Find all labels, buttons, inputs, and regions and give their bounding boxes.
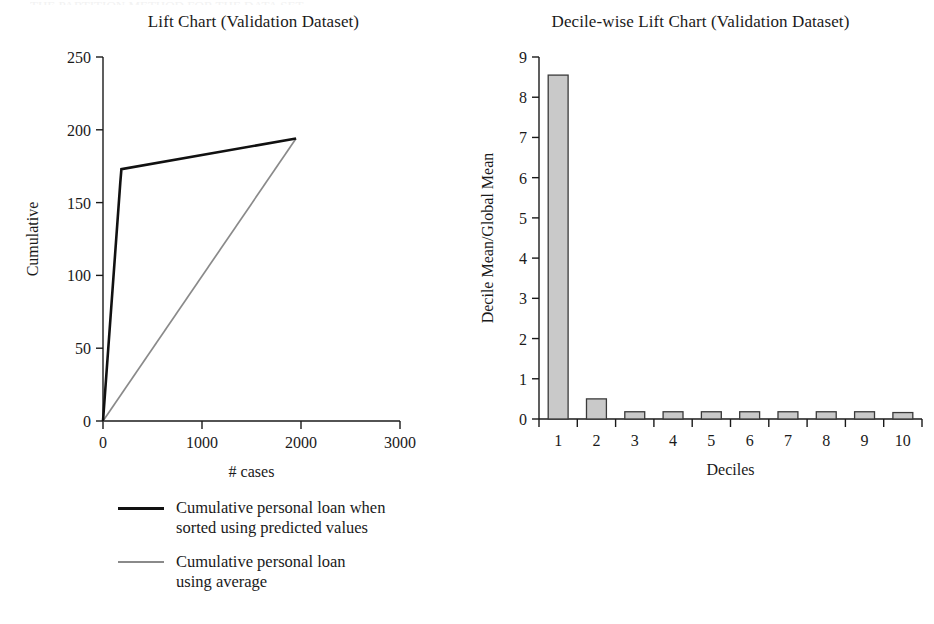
- svg-text:200: 200: [67, 122, 91, 139]
- svg-text:5: 5: [707, 432, 715, 449]
- svg-text:1000: 1000: [186, 434, 218, 451]
- legend-label-average: Cumulative personal loan using average: [176, 552, 346, 592]
- svg-text:0: 0: [519, 411, 527, 428]
- svg-text:250: 250: [67, 49, 91, 66]
- svg-text:0: 0: [83, 413, 91, 430]
- svg-text:8: 8: [822, 432, 830, 449]
- svg-text:8: 8: [519, 89, 527, 106]
- svg-text:4: 4: [519, 250, 527, 267]
- svg-text:100: 100: [67, 267, 91, 284]
- svg-text:0: 0: [99, 434, 107, 451]
- legend-swatch-predicted-icon: [118, 507, 164, 510]
- svg-text:3: 3: [631, 432, 639, 449]
- lift-chart-legend: Cumulative personal loan when sorted usi…: [118, 498, 448, 606]
- svg-text:Cumulative: Cumulative: [24, 202, 41, 277]
- svg-text:9: 9: [519, 49, 527, 66]
- legend-item-predicted: Cumulative personal loan when sorted usi…: [118, 498, 448, 538]
- svg-text:10: 10: [895, 432, 911, 449]
- svg-text:6: 6: [746, 432, 754, 449]
- svg-text:3: 3: [519, 290, 527, 307]
- lift-chart-panel: Lift Chart (Validation Dataset) 05010015…: [0, 0, 467, 624]
- svg-text:Deciles: Deciles: [707, 461, 755, 478]
- svg-text:1: 1: [554, 432, 562, 449]
- svg-text:9: 9: [861, 432, 869, 449]
- svg-text:50: 50: [75, 340, 91, 357]
- legend-item-average: Cumulative personal loan using average: [118, 552, 448, 592]
- svg-text:1: 1: [519, 371, 527, 388]
- decile-lift-chart-plot: 012345678912345678910DecilesDecile Mean/…: [467, 0, 934, 624]
- svg-text:3000: 3000: [384, 434, 416, 451]
- svg-text:6: 6: [519, 170, 527, 187]
- legend-swatch-average-icon: [118, 561, 164, 563]
- svg-text:2: 2: [592, 432, 600, 449]
- svg-text:150: 150: [67, 195, 91, 212]
- svg-text:7: 7: [519, 129, 527, 146]
- svg-text:5: 5: [519, 210, 527, 227]
- svg-text:# cases: # cases: [229, 463, 275, 480]
- svg-text:2000: 2000: [285, 434, 317, 451]
- legend-label-predicted: Cumulative personal loan when sorted usi…: [176, 498, 385, 538]
- svg-text:7: 7: [784, 432, 792, 449]
- svg-text:2: 2: [519, 331, 527, 348]
- decile-lift-chart-panel: Decile-wise Lift Chart (Validation Datas…: [467, 0, 934, 624]
- svg-text:4: 4: [669, 432, 677, 449]
- svg-text:Decile Mean/Global Mean: Decile Mean/Global Mean: [479, 153, 496, 324]
